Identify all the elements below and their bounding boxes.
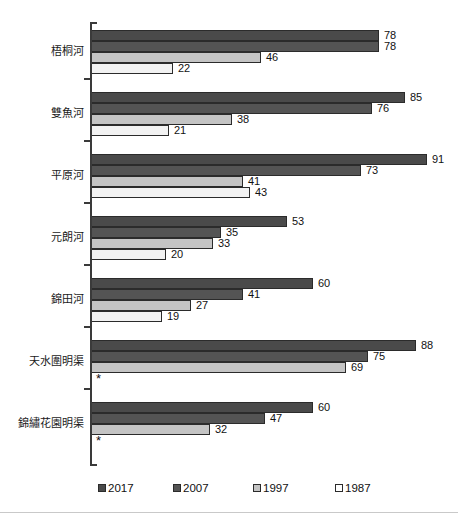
axis-cap-top [90, 22, 97, 24]
bar-value-label: 46 [266, 50, 278, 64]
bar [92, 362, 346, 373]
bar-value-label: 60 [318, 276, 330, 290]
chart-legend: 2017200719971987 [0, 482, 458, 502]
bar-value-label: 20 [171, 247, 183, 261]
bar-value-label: 60 [318, 400, 330, 414]
legend-swatch-icon [173, 484, 181, 492]
bar-value-label: 78 [384, 39, 396, 53]
bar [92, 413, 265, 424]
plot-area: 梧桐河78784622雙魚河85763821平原河91734143元朗河5335… [0, 14, 458, 474]
bar [92, 41, 379, 52]
category-label: 雙魚河 [0, 107, 84, 120]
axis-tick [84, 78, 91, 80]
bar [92, 165, 361, 176]
legend-swatch-icon [253, 484, 261, 492]
bar-value-label: 43 [255, 185, 267, 199]
bar [92, 249, 166, 260]
axis-tick [84, 202, 91, 204]
bar [92, 30, 379, 41]
axis-tick [84, 388, 91, 390]
axis-tick [84, 326, 91, 328]
bar [92, 187, 250, 198]
axis-cap-bottom [90, 464, 97, 466]
legend-label: 1987 [345, 482, 371, 494]
category-group: 錦繡花園明渠604732* [0, 402, 458, 446]
bar [92, 103, 372, 114]
legend-swatch-icon [98, 484, 106, 492]
legend-item-2017[interactable]: 2017 [98, 482, 134, 494]
legend-item-2007[interactable]: 2007 [173, 482, 209, 494]
legend-swatch-icon [335, 484, 343, 492]
bar-value-label: 27 [196, 298, 208, 312]
bar [92, 424, 210, 435]
category-group: 平原河91734143 [0, 154, 458, 198]
category-label: 梧桐河 [0, 45, 84, 58]
bar-value-label: 75 [373, 349, 385, 363]
bar [92, 125, 169, 136]
bar [92, 227, 221, 238]
bar [92, 92, 405, 103]
bar-value-label: 85 [410, 90, 422, 104]
category-label: 元朗河 [0, 231, 84, 244]
category-label: 錦繡花園明渠 [0, 417, 84, 430]
bar [92, 289, 243, 300]
bar [92, 216, 287, 227]
category-label: 平原河 [0, 169, 84, 182]
bar-value-label: 73 [366, 163, 378, 177]
missing-data-marker: * [96, 373, 101, 384]
legend-label: 2017 [108, 482, 134, 494]
bar [92, 63, 173, 74]
bar-value-label: 47 [270, 411, 282, 425]
bar-value-label: 91 [432, 152, 444, 166]
legend-label: 2007 [183, 482, 209, 494]
bar-value-label: 33 [218, 236, 230, 250]
bar-value-label: 41 [248, 287, 260, 301]
bar-value-label: 32 [215, 422, 227, 436]
bar [92, 176, 243, 187]
axis-tick [84, 140, 91, 142]
category-group: 錦田河60412719 [0, 278, 458, 322]
category-label: 錦田河 [0, 293, 84, 306]
bar-value-label: 88 [421, 338, 433, 352]
bar [92, 52, 261, 63]
bar-value-label: 69 [351, 360, 363, 374]
bar [92, 351, 368, 362]
category-group: 天水圍明渠887569* [0, 340, 458, 384]
bar-value-label: 53 [292, 214, 304, 228]
legend-item-1987[interactable]: 1987 [335, 482, 371, 494]
category-label: 天水圍明渠 [0, 355, 84, 368]
bar [92, 114, 232, 125]
bar-value-label: 22 [178, 61, 190, 75]
category-group: 雙魚河85763821 [0, 92, 458, 136]
missing-data-marker: * [96, 435, 101, 446]
bar [92, 238, 213, 249]
legend-label: 1997 [263, 482, 289, 494]
bar [92, 311, 162, 322]
category-group: 梧桐河78784622 [0, 30, 458, 74]
bar-value-label: 19 [167, 309, 179, 323]
legend-item-1997[interactable]: 1997 [253, 482, 289, 494]
category-group: 元朗河53353320 [0, 216, 458, 260]
axis-tick [84, 264, 91, 266]
bar-chart: 梧桐河78784622雙魚河85763821平原河91734143元朗河5335… [0, 0, 458, 518]
bar-value-label: 76 [377, 101, 389, 115]
bar-value-label: 38 [237, 112, 249, 126]
bottom-divider [0, 512, 458, 513]
bar [92, 340, 416, 351]
bar [92, 278, 313, 289]
bar-value-label: 21 [174, 123, 186, 137]
